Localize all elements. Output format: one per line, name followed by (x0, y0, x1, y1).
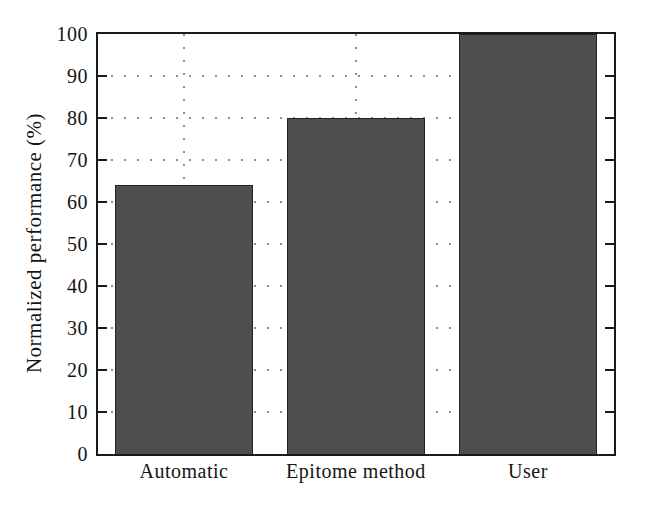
right-tick-20 (605, 369, 614, 371)
y-tick-label-50: 50 (0, 234, 88, 254)
left-tick-20 (98, 369, 107, 371)
right-tick-70 (605, 159, 614, 161)
right-tick-60 (605, 201, 614, 203)
y-tick-label-0: 0 (0, 444, 88, 464)
bar-epitome-method (287, 118, 425, 454)
y-tick-label-20: 20 (0, 360, 88, 380)
left-tick-70 (98, 159, 107, 161)
left-tick-60 (98, 201, 107, 203)
x-label-automatic: Automatic (104, 460, 264, 483)
right-tick-40 (605, 285, 614, 287)
right-tick-10 (605, 411, 614, 413)
bar-user (459, 34, 597, 454)
left-tick-90 (98, 75, 107, 77)
bar-chart-figure: Normalized performance (%) 0102030405060… (0, 0, 646, 531)
left-tick-40 (98, 285, 107, 287)
right-tick-30 (605, 327, 614, 329)
y-tick-label-40: 40 (0, 276, 88, 296)
x-label-epitome-method: Epitome method (276, 460, 436, 483)
y-tick-label-70: 70 (0, 150, 88, 170)
left-tick-30 (98, 327, 107, 329)
y-axis-tick-labels: 0102030405060708090100 (0, 0, 88, 531)
y-tick-label-90: 90 (0, 66, 88, 86)
plot-area (96, 32, 616, 456)
y-tick-label-60: 60 (0, 192, 88, 212)
bar-automatic (115, 185, 253, 454)
left-tick-80 (98, 117, 107, 119)
y-tick-label-100: 100 (0, 24, 88, 44)
y-tick-label-80: 80 (0, 108, 88, 128)
y-tick-label-30: 30 (0, 318, 88, 338)
left-tick-10 (98, 411, 107, 413)
right-tick-50 (605, 243, 614, 245)
left-tick-50 (98, 243, 107, 245)
right-tick-90 (605, 75, 614, 77)
y-tick-label-10: 10 (0, 402, 88, 422)
x-label-user: User (448, 460, 608, 483)
right-tick-80 (605, 117, 614, 119)
